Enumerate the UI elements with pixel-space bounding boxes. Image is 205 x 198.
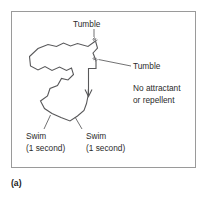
tumble-right-label: Tumble (133, 61, 161, 71)
swim-right-label-line2: (1 second) (86, 143, 125, 153)
swim-left-label-line1: Swim (26, 131, 46, 141)
swim-right-label-line1: Swim (86, 131, 106, 141)
bacterial-trajectory-diagram: Tumble Tumble No attractant or repellent… (0, 0, 205, 198)
condition-label-line1: No attractant (133, 83, 181, 93)
figure-caption: (a) (11, 178, 22, 188)
figure-container: Tumble Tumble No attractant or repellent… (0, 0, 205, 198)
swim-left-label-line2: (1 second) (26, 143, 65, 153)
tumble-top-label: Tumble (73, 19, 101, 29)
condition-label-line2: or repellent (133, 95, 175, 105)
